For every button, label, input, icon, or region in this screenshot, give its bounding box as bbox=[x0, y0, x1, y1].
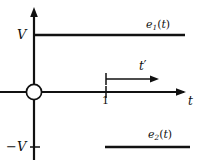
t-prime-arrowhead bbox=[150, 75, 159, 82]
voltage-axis-arrowhead bbox=[30, 7, 38, 17]
e2-argument: (t) bbox=[159, 128, 172, 141]
axis-label-negative-v: −V bbox=[6, 140, 26, 153]
signal-label-e1: e1(t) bbox=[146, 19, 170, 31]
tick-label-one: 1 bbox=[102, 95, 109, 106]
time-axis-arrowhead bbox=[176, 88, 186, 96]
t-prime-mark: ′ bbox=[144, 59, 147, 73]
axis-label-v: V bbox=[17, 28, 26, 41]
e1-argument: (t) bbox=[157, 18, 170, 31]
voltage-axis bbox=[30, 7, 38, 160]
annotation-label-t-prime: t′ bbox=[139, 60, 147, 72]
waveform-figure: V −V 1 t t′ e1(t) e2(t) bbox=[0, 0, 201, 164]
origin-node-circle bbox=[26, 84, 41, 99]
signal-label-e2: e2(t) bbox=[148, 129, 172, 141]
t-prime-arrow bbox=[106, 73, 159, 85]
axis-label-t: t bbox=[188, 95, 193, 107]
